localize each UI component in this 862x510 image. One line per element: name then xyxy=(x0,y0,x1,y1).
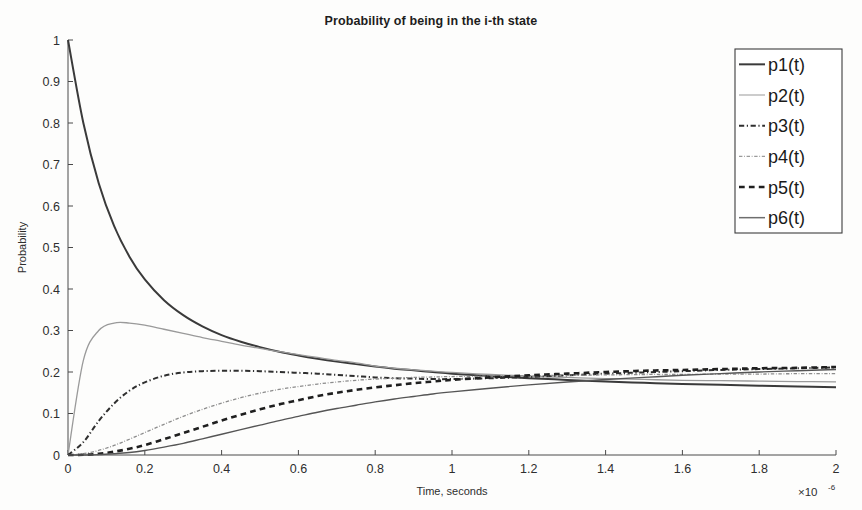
series-line-1 xyxy=(68,40,836,387)
y-axis-title: Probability xyxy=(16,221,28,273)
x-tick-label: 0.2 xyxy=(136,462,153,476)
axis-labels-group: ProbabilityTime, seconds×10-6 xyxy=(16,221,836,498)
legend-label-6: p6(t) xyxy=(768,208,805,228)
x-tick-label: 0 xyxy=(65,462,72,476)
y-tick-label: 0.6 xyxy=(43,200,60,214)
series-line-2 xyxy=(68,322,836,455)
plot-area: 00.20.40.60.811.21.41.61.8200.10.20.30.4… xyxy=(0,0,862,510)
x-tick-label: 1.2 xyxy=(520,462,537,476)
x-axis-exponent: ×10 xyxy=(798,486,818,498)
x-tick-label: 1.8 xyxy=(751,462,768,476)
legend-label-4: p4(t) xyxy=(768,147,805,167)
series-line-6 xyxy=(68,370,836,455)
legend-box xyxy=(735,49,842,233)
legend-label-1: p1(t) xyxy=(768,55,805,75)
y-tick-label: 0.7 xyxy=(43,158,60,172)
series-group xyxy=(68,40,836,455)
x-tick-label: 0.4 xyxy=(213,462,230,476)
y-tick-label: 0.4 xyxy=(43,283,60,297)
x-tick-label: 0.6 xyxy=(290,462,307,476)
y-tick-label: 0 xyxy=(53,449,60,463)
x-tick-label: 1 xyxy=(449,462,456,476)
axes-group: 00.20.40.60.811.21.41.61.8200.10.20.30.4… xyxy=(43,34,840,477)
legend-label-3: p3(t) xyxy=(768,116,805,136)
y-tick-label: 0.2 xyxy=(43,366,60,380)
legend-label-5: p5(t) xyxy=(768,178,805,198)
y-tick-label: 0.1 xyxy=(43,407,60,421)
legend-label-2: p2(t) xyxy=(768,86,805,106)
x-tick-label: 1.4 xyxy=(597,462,614,476)
y-tick-label: 0.9 xyxy=(43,75,60,89)
y-tick-label: 0.8 xyxy=(43,117,60,131)
chart-svg: 00.20.40.60.811.21.41.61.8200.10.20.30.4… xyxy=(0,0,862,510)
x-axis-title: Time, seconds xyxy=(416,485,488,497)
x-tick-label: 0.8 xyxy=(367,462,384,476)
x-tick-label: 2 xyxy=(833,462,840,476)
legend: p1(t)p2(t)p3(t)p4(t)p5(t)p6(t) xyxy=(735,49,842,233)
y-tick-label: 1 xyxy=(53,34,60,48)
x-axis-exponent-superscript: -6 xyxy=(828,483,836,492)
x-tick-label: 1.6 xyxy=(674,462,691,476)
y-tick-label: 0.3 xyxy=(43,324,60,338)
y-tick-label: 0.5 xyxy=(43,241,60,255)
axis-lines xyxy=(68,40,836,455)
